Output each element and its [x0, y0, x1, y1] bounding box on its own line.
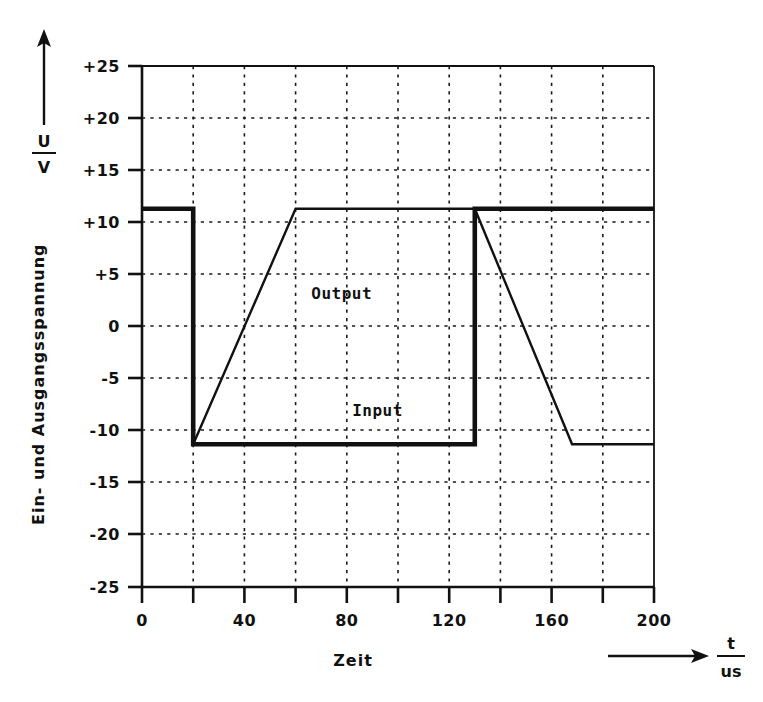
y-unit-denominator: V	[38, 158, 51, 177]
xtick-label-8: 160	[534, 611, 569, 630]
x-axis-arrow-icon	[608, 649, 709, 663]
xtick-label-10: 200	[637, 611, 672, 630]
ytick-label-9: -20	[90, 525, 120, 544]
ytick-label-4: +5	[94, 265, 120, 284]
ytick-label-5: 0	[108, 317, 120, 336]
y-axis-title: Ein- und Ausgangsspannung	[29, 243, 48, 525]
chart-figure: +25 +20 +15 +10 +5 0 -5 -10 -15 -20 -25 …	[0, 0, 763, 702]
chart-svg: +25 +20 +15 +10 +5 0 -5 -10 -15 -20 -25 …	[0, 0, 763, 702]
ytick-label-8: -15	[90, 473, 120, 492]
xtick-label-2: 40	[233, 611, 256, 630]
series-label-input: Input	[352, 401, 403, 420]
xtick-label-6: 120	[432, 611, 467, 630]
y-axis-unit-fraction: U V	[32, 132, 56, 177]
x-axis-unit-fraction: t us	[717, 634, 745, 681]
ytick-label-10: -25	[90, 578, 120, 597]
ytick-label-1: +20	[83, 109, 120, 128]
ytick-label-3: +10	[83, 213, 120, 232]
y-axis-ticks	[128, 66, 142, 587]
x-unit-numerator: t	[727, 634, 735, 653]
y-unit-numerator: U	[38, 132, 51, 151]
ytick-label-2: +15	[83, 161, 120, 180]
ytick-label-7: -10	[90, 421, 120, 440]
ytick-label-6: -5	[101, 369, 120, 388]
x-unit-denominator: us	[721, 662, 742, 681]
ytick-label-0: +25	[83, 57, 120, 76]
xtick-label-0: 0	[136, 611, 148, 630]
xtick-label-4: 80	[335, 611, 358, 630]
x-axis-ticks	[142, 587, 654, 603]
y-axis-arrow-icon	[37, 29, 51, 125]
x-axis-title: Zeit	[333, 651, 373, 670]
series-label-output: Output	[311, 284, 372, 303]
